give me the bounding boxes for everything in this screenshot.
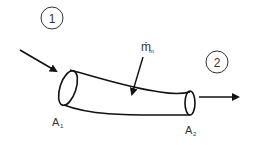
area-1-subscript: 1: [60, 123, 64, 129]
station-2-label: 2: [214, 56, 221, 70]
pipe-top-edge: [70, 70, 190, 94]
pipe-bottom-edge: [64, 105, 190, 115]
pipe-flow-diagram: 1 2 ṁ m A 1 A 2: [0, 0, 253, 145]
area-2-label: A 2: [185, 124, 197, 137]
station-1-marker: 1: [41, 7, 63, 29]
inlet-flow-arrow: [20, 50, 56, 71]
mass-flow-label: ṁ m: [141, 40, 154, 54]
inlet-cross-section: [55, 68, 81, 107]
area-1-symbol: A: [52, 116, 60, 128]
area-1-label: A 1: [52, 116, 64, 129]
area-2-symbol: A: [185, 124, 193, 136]
station-2-marker: 2: [206, 51, 228, 73]
station-1-label: 1: [49, 12, 56, 26]
area-2-subscript: 2: [193, 131, 197, 137]
outlet-cross-section: [185, 91, 195, 115]
mass-flow-subscript: m: [149, 48, 154, 54]
pipe-body: [55, 68, 195, 115]
